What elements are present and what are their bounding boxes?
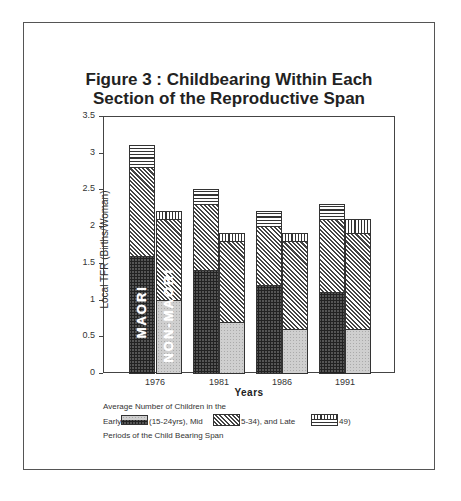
x-tick-label: 1981 <box>199 377 239 387</box>
bar-1991-non-maori-mid <box>345 233 371 329</box>
legend-early-suffix: (15-24yrs), Mid <box>149 417 203 426</box>
bar-1991-non-maori-late <box>345 219 371 235</box>
legend-swatch-early-maori <box>121 420 148 425</box>
y-tick-label: 3 <box>73 147 95 157</box>
bar-1986-non-maori-early <box>282 329 308 374</box>
legend-line-1: Average Number of Children in the <box>103 402 226 411</box>
y-tick-label: 2 <box>73 220 95 230</box>
bar-1976-maori-late <box>129 145 155 168</box>
y-tick-mark <box>99 116 103 117</box>
x-tick-label: 1976 <box>135 377 175 387</box>
legend-late-suffix: 49) <box>339 417 351 426</box>
bar-1976-maori-mid <box>129 167 155 256</box>
legend-early-prefix: Early <box>103 417 121 426</box>
bar-1991-maori-late <box>319 204 345 220</box>
bar-1986-maori-late <box>256 211 282 227</box>
bar-1976-non-maori-late <box>156 211 182 219</box>
y-tick-mark <box>99 153 103 154</box>
bar-1986-maori-mid <box>256 226 282 286</box>
y-axis-label: Local TFR (Births/Woman) <box>99 170 110 330</box>
bar-1991-maori-mid <box>319 219 345 293</box>
y-tick-label: 1 <box>73 294 95 304</box>
bar-1991-maori-early <box>319 292 345 374</box>
x-axis-label: Years <box>103 387 395 398</box>
y-tick-label: 3.5 <box>73 110 95 120</box>
bar-1986-non-maori-late <box>282 233 308 241</box>
non-maori-label: NON-MAORI <box>161 268 176 363</box>
y-tick-label: 1.5 <box>73 257 95 267</box>
y-tick-label: 0 <box>73 367 95 377</box>
maori-label: MAORI <box>134 285 149 338</box>
legend-mid-suffix: 5-34), and Late <box>241 417 295 426</box>
bar-1981-non-maori-early <box>219 322 245 374</box>
bar-1981-maori-late <box>193 189 219 205</box>
title-line-1: Figure 3 : Childbearing Within Each <box>23 70 435 89</box>
bar-1981-maori-mid <box>193 204 219 271</box>
bar-1981-non-maori-late <box>219 233 245 241</box>
x-tick-label: 1986 <box>262 377 302 387</box>
y-tick-mark <box>99 336 103 337</box>
legend-swatch-mid <box>213 414 240 426</box>
bar-1991-non-maori-early <box>345 329 371 374</box>
y-tick-mark <box>99 373 103 374</box>
y-tick-label: 0.5 <box>73 330 95 340</box>
bar-1981-non-maori-mid <box>219 241 245 323</box>
bar-1986-non-maori-mid <box>282 241 308 330</box>
title-line-2: Section of the Reproductive Span <box>23 89 435 108</box>
bar-1981-maori-early <box>193 270 219 374</box>
legend-swatch-late-maori <box>311 420 338 426</box>
y-tick-label: 2.5 <box>73 183 95 193</box>
legend-line-3: Periods of the Child Bearing Span <box>103 431 224 440</box>
bar-1986-maori-early <box>256 285 282 374</box>
chart-title: Figure 3 : Childbearing Within Each Sect… <box>23 70 435 108</box>
x-tick-label: 1991 <box>325 377 365 387</box>
